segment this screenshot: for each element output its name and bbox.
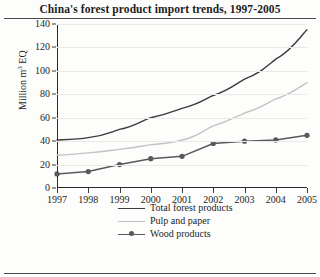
legend-line-icon (118, 221, 145, 222)
x-axis-tick-mark (245, 188, 246, 193)
y-axis-tick-label: 100 (35, 66, 50, 76)
legend-swatch-icon (118, 202, 145, 213)
y-axis-tick-mark (52, 117, 56, 118)
series-lines (57, 24, 307, 188)
y-axis-tick-mark (52, 24, 56, 25)
chart-figure: China's forest product import trends, 19… (0, 0, 320, 277)
legend-marker-icon (129, 231, 134, 236)
legend-swatch-icon (118, 215, 145, 226)
legend-line-icon (118, 208, 145, 209)
data-point-marker (179, 154, 184, 159)
y-axis-tick-label: 40 (40, 136, 50, 146)
title-container: China's forest product import trends, 19… (0, 0, 320, 16)
gridline (57, 47, 307, 48)
y-axis-tick-mark (52, 188, 56, 189)
legend-item[interactable]: Total forest products (118, 201, 320, 214)
gridline (57, 118, 307, 119)
legend-label: Wood products (150, 228, 211, 239)
legend-swatch-icon (118, 228, 145, 239)
y-axis-label-unit: EQ (17, 50, 28, 66)
y-axis-tick-label: 0 (45, 183, 50, 193)
legend-label: Total forest products (150, 202, 233, 213)
y-axis-tick-mark (52, 94, 56, 95)
y-axis-label-main: Million m (17, 70, 28, 110)
y-axis-tick-mark (52, 70, 56, 71)
gridline (57, 94, 307, 95)
legend-item[interactable]: Pulp and paper (118, 214, 320, 227)
x-axis-tick-mark (276, 188, 277, 193)
data-point-marker (86, 169, 91, 174)
data-point-marker (54, 171, 59, 176)
plot-area: 0204060801001201401997199819992000200120… (57, 24, 307, 188)
y-axis-tick-mark (52, 47, 56, 48)
data-point-marker (148, 156, 153, 161)
legend-item[interactable]: Wood products (118, 227, 320, 240)
x-axis-tick-mark (182, 188, 183, 193)
x-axis-tick-mark (151, 188, 152, 193)
x-axis-tick-mark (213, 188, 214, 193)
footer-divider-rule (4, 273, 316, 274)
y-axis-label-exponent: 3 (16, 66, 24, 70)
chart-legend: Total forest productsPulp and paperWood … (0, 201, 320, 273)
series-line (57, 30, 307, 140)
y-axis-tick-label: 80 (40, 89, 50, 99)
plot-block: Million m3 EQ 02040608010012014019971998… (0, 19, 320, 201)
gridline (57, 24, 307, 25)
y-axis-tick-mark (52, 141, 56, 142)
gridline (57, 71, 307, 72)
legend-label: Pulp and paper (150, 215, 210, 226)
y-axis-tick-mark (52, 164, 56, 165)
x-axis-tick-mark (120, 188, 121, 193)
y-axis-tick-label: 140 (35, 19, 50, 29)
y-axis-label: Million m3 EQ (16, 20, 28, 140)
gridline (57, 141, 307, 142)
y-axis-tick-label: 60 (40, 113, 50, 123)
gridline (57, 165, 307, 166)
y-axis-tick-label: 20 (40, 160, 50, 170)
x-axis-tick-mark (88, 188, 89, 193)
page-title: China's forest product import trends, 19… (6, 2, 314, 16)
y-axis-tick-label: 120 (35, 42, 50, 52)
x-axis-tick-mark (57, 188, 58, 193)
x-axis-tick-mark (307, 188, 308, 193)
data-point-marker (304, 133, 309, 138)
